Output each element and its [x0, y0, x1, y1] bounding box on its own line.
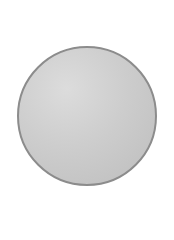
- gray-circle: [17, 46, 157, 186]
